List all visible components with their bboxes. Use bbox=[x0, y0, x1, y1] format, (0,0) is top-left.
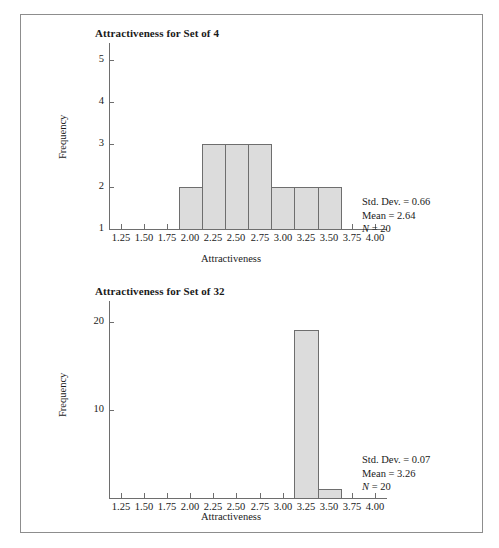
histogram-bar bbox=[318, 489, 342, 499]
panel-1-y-axis-label: Frequency bbox=[57, 115, 68, 159]
histogram-set-of-32: Attractiveness for Set of 32 Frequency 1… bbox=[21, 273, 484, 533]
figure-frame: Attractiveness for Set of 4 Frequency 1.… bbox=[20, 14, 483, 533]
histogram-bar bbox=[248, 144, 272, 230]
histogram-set-of-4: Attractiveness for Set of 4 Frequency 1.… bbox=[21, 15, 484, 275]
panel-1-n-value: = 20 bbox=[369, 223, 391, 234]
x-tick bbox=[260, 493, 261, 498]
y-axis-line bbox=[109, 43, 110, 230]
y-tick-label: 10 bbox=[79, 403, 104, 414]
y-tick-label: 5 bbox=[79, 53, 104, 64]
panel-1-n: N = 20 bbox=[362, 222, 430, 236]
histogram-bar bbox=[294, 187, 319, 230]
x-tick bbox=[236, 493, 237, 498]
histogram-bar bbox=[318, 187, 342, 230]
panel-1-mean: Mean = 2.64 bbox=[362, 209, 430, 223]
x-tick bbox=[375, 493, 376, 498]
panel-2-title: Attractiveness for Set of 32 bbox=[95, 285, 225, 297]
histogram-bar bbox=[225, 144, 249, 230]
panel-1-x-axis-label: Attractiveness bbox=[171, 253, 291, 264]
y-tick-label: 1 bbox=[79, 222, 104, 233]
x-tick bbox=[352, 224, 353, 229]
panel-1-title: Attractiveness for Set of 4 bbox=[95, 27, 219, 39]
histogram-bar bbox=[179, 187, 203, 230]
y-tick-label: 3 bbox=[79, 137, 104, 148]
panel-1-stats: Std. Dev. = 0.66 Mean = 2.64 N = 20 bbox=[362, 195, 430, 236]
y-tick bbox=[109, 322, 114, 323]
x-tick bbox=[144, 224, 145, 229]
x-tick bbox=[167, 224, 168, 229]
panel-1-std-dev: Std. Dev. = 0.66 bbox=[362, 195, 430, 209]
x-tick-label: 4.00 bbox=[359, 501, 391, 512]
panel-2-stats: Std. Dev. = 0.07 Mean = 3.26 N = 20 bbox=[362, 453, 430, 494]
y-tick bbox=[109, 60, 114, 61]
y-tick-label: 4 bbox=[79, 95, 104, 106]
y-tick bbox=[109, 410, 114, 411]
panel-2-std-dev: Std. Dev. = 0.07 bbox=[362, 453, 430, 467]
y-tick bbox=[109, 187, 114, 188]
x-tick bbox=[352, 493, 353, 498]
panel-2-x-axis-label: Attractiveness bbox=[171, 511, 291, 522]
panel-2-n-value: = 20 bbox=[369, 481, 391, 492]
y-axis-line bbox=[109, 301, 110, 499]
x-tick bbox=[213, 493, 214, 498]
x-tick bbox=[144, 493, 145, 498]
panel-2-mean: Mean = 3.26 bbox=[362, 467, 430, 481]
x-tick bbox=[121, 493, 122, 498]
y-tick bbox=[109, 229, 114, 230]
histogram-bar bbox=[202, 144, 226, 230]
panel-1-n-symbol: N bbox=[362, 223, 369, 234]
x-tick bbox=[167, 493, 168, 498]
y-tick-label: 2 bbox=[79, 180, 104, 191]
x-tick bbox=[190, 493, 191, 498]
x-tick bbox=[121, 224, 122, 229]
x-axis-line bbox=[109, 498, 387, 499]
panel-2-y-axis-label: Frequency bbox=[57, 373, 68, 417]
x-tick bbox=[283, 493, 284, 498]
y-tick bbox=[109, 144, 114, 145]
panel-2-n-symbol: N bbox=[362, 481, 369, 492]
histogram-bar bbox=[271, 187, 295, 230]
y-tick bbox=[109, 102, 114, 103]
y-tick-label: 20 bbox=[79, 315, 104, 326]
panel-2-n: N = 20 bbox=[362, 480, 430, 494]
histogram-bar bbox=[294, 330, 319, 499]
